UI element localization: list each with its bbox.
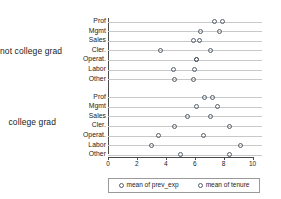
- gridline: [108, 126, 262, 127]
- gridline: [108, 60, 262, 61]
- gridline: [108, 155, 262, 156]
- data-point-mean-of-prev_exp: [212, 19, 217, 24]
- category-label-operat: Operat.: [83, 56, 106, 63]
- data-point-mean-of-tenure: [238, 143, 243, 148]
- data-point-mean-of-tenure: [210, 95, 215, 100]
- x-axis-line: [108, 157, 253, 158]
- data-point-mean-of-tenure: [220, 19, 225, 24]
- gridline: [108, 79, 262, 80]
- category-label-sales: Sales: [89, 37, 106, 44]
- data-point-mean-of-prev_exp: [149, 143, 154, 148]
- category-label-mgmt: Mgmt: [89, 28, 106, 35]
- data-point-mean-of-tenure: [217, 29, 222, 34]
- category-label-other: Other: [89, 76, 106, 83]
- group-label-text: college grad: [8, 117, 56, 127]
- gridline: [108, 22, 262, 23]
- category-label-sales: Sales: [89, 113, 106, 120]
- data-point-mean-of-prev_exp: [191, 38, 196, 43]
- x-tick-label: 2: [130, 161, 144, 168]
- data-point-mean-of-tenure: [215, 104, 220, 109]
- data-point-mean-of-tenure: [201, 133, 206, 138]
- category-label-prof: Prof: [93, 94, 106, 101]
- data-point-mean-of-prev_exp: [198, 29, 203, 34]
- data-point-mean-of-prev_exp: [172, 124, 177, 129]
- x-tick-label: 6: [188, 161, 202, 168]
- chart-legend: mean of prev_exp mean of tenure: [108, 178, 260, 193]
- legend-entry-prev-exp: mean of prev_exp: [119, 182, 179, 189]
- x-tick-label: 10: [246, 161, 260, 168]
- dotplot-chart: not college grad college grad ProfMgmtSa…: [0, 0, 281, 199]
- gridline: [108, 50, 262, 51]
- data-point-mean-of-prev_exp: [156, 133, 161, 138]
- data-point-mean-of-tenure: [208, 48, 213, 53]
- data-point-mean-of-tenure: [194, 57, 199, 62]
- category-label-cler: Cler.: [92, 47, 106, 54]
- x-tick-label: 0: [101, 161, 115, 168]
- data-point-mean-of-tenure: [197, 38, 202, 43]
- y-axis-line: [108, 18, 109, 154]
- category-label-labor: Labor: [88, 66, 106, 73]
- legend-label: mean of prev_exp: [127, 182, 179, 189]
- data-point-mean-of-prev_exp: [202, 95, 207, 100]
- x-tick-label: 8: [217, 161, 231, 168]
- data-point-mean-of-prev_exp: [171, 67, 176, 72]
- group-label-text: not college grad: [0, 46, 62, 56]
- plot-area: [108, 18, 262, 154]
- open-circle-icon: [198, 183, 203, 188]
- category-label-labor: Labor: [88, 142, 106, 149]
- category-label-prof: Prof: [93, 18, 106, 25]
- category-label-cler: Cler.: [92, 122, 106, 129]
- x-tick-label: 4: [159, 161, 173, 168]
- data-point-mean-of-prev_exp: [194, 104, 199, 109]
- gridline: [108, 31, 262, 32]
- data-point-mean-of-prev_exp: [158, 48, 163, 53]
- legend-entry-tenure: mean of tenure: [198, 182, 250, 189]
- category-label-operat: Operat.: [83, 132, 106, 139]
- gridline: [108, 97, 262, 98]
- data-point-mean-of-tenure: [227, 124, 232, 129]
- data-point-mean-of-prev_exp: [172, 77, 177, 82]
- legend-label: mean of tenure: [206, 182, 250, 189]
- group-label-not-college-grad: not college grad: [0, 46, 56, 56]
- category-axis-labels: ProfMgmtSalesCler.Operat.LaborOtherProfM…: [58, 0, 106, 155]
- category-label-mgmt: Mgmt: [89, 103, 106, 110]
- group-label-college-grad: college grad: [0, 117, 56, 127]
- gridline: [108, 70, 262, 71]
- gridline: [108, 107, 262, 108]
- gridline: [108, 41, 262, 42]
- data-point-mean-of-tenure: [208, 114, 213, 119]
- category-label-other: Other: [89, 151, 106, 158]
- data-point-mean-of-prev_exp: [185, 114, 190, 119]
- data-point-mean-of-tenure: [192, 67, 197, 72]
- data-point-mean-of-tenure: [191, 77, 196, 82]
- open-circle-icon: [119, 183, 124, 188]
- gridline: [108, 136, 262, 137]
